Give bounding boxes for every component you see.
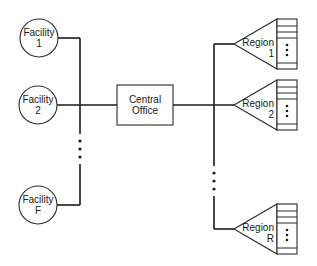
facility-1-index: 1	[19, 38, 59, 49]
region-1-name: Region	[241, 37, 274, 48]
region-1-index: 1	[241, 48, 274, 59]
facility-f-label: Facility F	[18, 194, 58, 216]
central-office-line2: Office	[117, 105, 173, 116]
facility-2-index: 2	[18, 105, 58, 116]
region-2-label: Region 2	[241, 98, 274, 120]
facility-f-index: F	[18, 205, 58, 216]
facility-ellipsis-icon	[78, 139, 81, 158]
facility-bus	[57, 38, 117, 205]
facility-2-label: Facility 2	[18, 94, 58, 116]
region-bus	[173, 44, 234, 229]
network-diagram: Facility 1 Facility 2 Facility F Central…	[0, 0, 317, 266]
region-ellipsis-icon	[212, 171, 215, 190]
region-r-name: Region	[241, 222, 274, 233]
region-1-label: Region 1	[241, 37, 274, 59]
central-office-label: Central Office	[117, 94, 173, 116]
region-2-index: 2	[241, 109, 274, 120]
region-r-index: R	[241, 233, 274, 244]
facility-2-name: Facility	[18, 94, 58, 105]
central-office-line1: Central	[117, 94, 173, 105]
facility-1-name: Facility	[19, 27, 59, 38]
facility-1-label: Facility 1	[19, 27, 59, 49]
region-2-name: Region	[241, 98, 274, 109]
facility-f-name: Facility	[18, 194, 58, 205]
region-r-label: Region R	[241, 222, 274, 244]
